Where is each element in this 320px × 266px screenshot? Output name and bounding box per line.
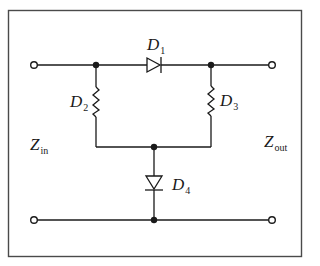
junction-node-top-right bbox=[208, 62, 214, 68]
label-zin: Zin bbox=[30, 136, 48, 153]
label-d2-sub: 2 bbox=[83, 102, 88, 113]
d2-varistor-icon bbox=[93, 87, 99, 117]
terminal-input-bottom bbox=[31, 217, 38, 224]
terminal-input-top bbox=[31, 62, 38, 69]
label-d1-main: D bbox=[147, 35, 159, 54]
label-d1: D1 bbox=[147, 36, 165, 53]
label-zout-sub: out bbox=[274, 142, 287, 153]
d1-diode-icon bbox=[147, 57, 161, 73]
junction-node-bottom bbox=[151, 217, 157, 223]
label-d4-sub: 4 bbox=[185, 185, 190, 196]
label-zin-sub: in bbox=[40, 145, 48, 156]
junction-node-middle bbox=[151, 144, 157, 150]
d3-varistor-icon bbox=[208, 86, 214, 116]
label-d1-sub: 1 bbox=[160, 45, 165, 56]
label-d2: D2 bbox=[70, 93, 88, 110]
label-d4-main: D bbox=[172, 175, 184, 194]
terminal-output-bottom bbox=[269, 217, 276, 224]
label-zin-main: Z bbox=[30, 135, 39, 154]
terminal-output-top bbox=[269, 62, 276, 69]
label-zout: Zout bbox=[264, 133, 287, 150]
label-d3-sub: 3 bbox=[233, 101, 238, 112]
label-d3: D3 bbox=[220, 92, 238, 109]
junction-node-top-left bbox=[93, 62, 99, 68]
label-d2-main: D bbox=[70, 92, 82, 111]
d4-diode-icon bbox=[145, 176, 163, 190]
label-d3-main: D bbox=[220, 91, 232, 110]
label-zout-main: Z bbox=[264, 132, 273, 151]
label-d4: D4 bbox=[172, 176, 190, 193]
